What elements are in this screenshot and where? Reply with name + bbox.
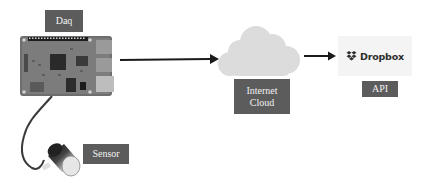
internet-cloud-label-line2: Cloud [250,97,274,109]
internet-cloud-label-line1: Internet [246,85,277,97]
cloud-icon [216,24,304,78]
dropbox-logo-text: Dropbox [360,51,404,62]
dropbox-logo: Dropbox [338,36,412,76]
dropbox-logo-icon [346,51,357,61]
daq-label-text: Daq [56,15,73,27]
sensor-probe-icon [38,138,88,180]
raspberry-pi-board-icon [18,34,114,98]
arrow-cloud-to-api [302,50,338,62]
internet-cloud-label: Internet Cloud [234,79,290,114]
sensor-label: Sensor [83,144,129,164]
api-label-text: API [372,83,388,95]
sensor-label-text: Sensor [92,148,119,160]
api-label: API [362,81,398,97]
arrow-daq-to-cloud [118,52,220,66]
daq-label: Daq [45,10,83,32]
